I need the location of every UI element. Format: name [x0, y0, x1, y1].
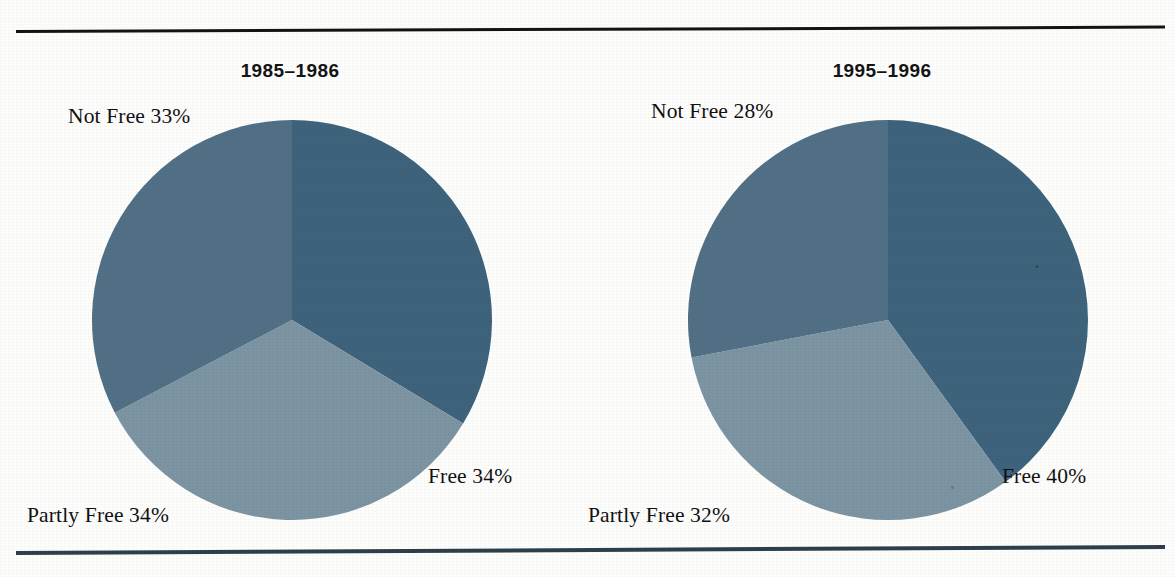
slice-label-not-free-1995: Not Free 28%: [651, 99, 773, 124]
pie-chart-1995-1996: [688, 120, 1088, 520]
figure-page: 1985–1986 Not Free 33% Partly Free 34% F…: [0, 0, 1175, 577]
chart-panel-1995-1996: 1995–1996 Not Free 28% Partly Free 32% F…: [588, 0, 1175, 577]
pie-slice-not-free-1995[interactable]: [688, 120, 888, 357]
scan-speck: [1035, 265, 1039, 268]
slice-label-partly-free-1985: Partly Free 34%: [27, 503, 169, 528]
slice-label-free-1995: Free 40%: [1002, 464, 1086, 489]
panel-title-1995-1996: 1995–1996: [588, 60, 1175, 82]
slice-label-not-free-1985: Not Free 33%: [68, 104, 190, 129]
pie-svg-1985-1986: [92, 120, 492, 520]
chart-panel-1985-1986: 1985–1986 Not Free 33% Partly Free 34% F…: [0, 0, 588, 577]
panel-title-1985-1986: 1985–1986: [0, 60, 584, 82]
scan-speck: [951, 486, 954, 489]
slice-label-free-1985: Free 34%: [428, 464, 512, 489]
slice-label-partly-free-1995: Partly Free 32%: [588, 503, 730, 528]
pie-chart-1985-1986: [92, 120, 492, 520]
pie-svg-1995-1996: [688, 120, 1088, 520]
